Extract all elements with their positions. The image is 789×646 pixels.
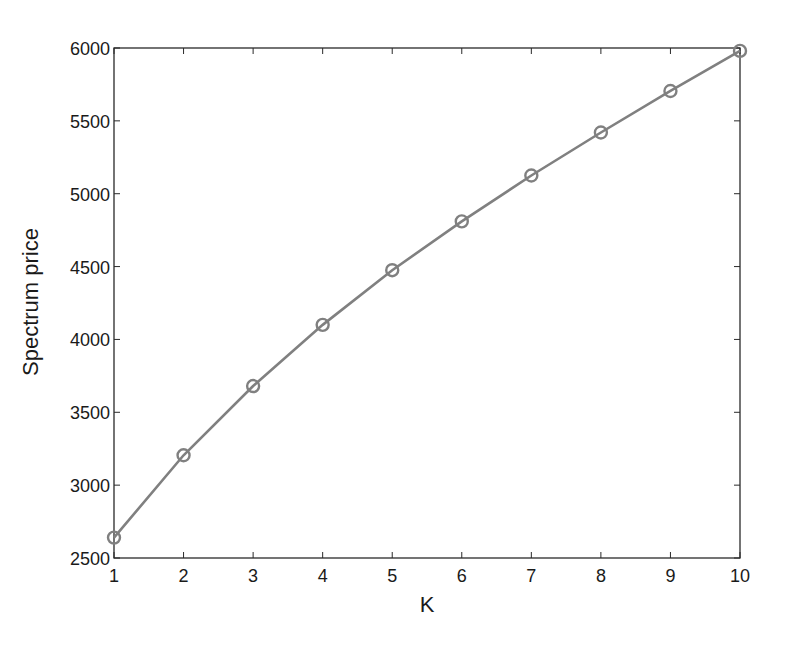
y-tick-label: 5000	[70, 185, 110, 205]
y-tick-label: 4500	[70, 258, 110, 278]
x-tick-label: 10	[730, 566, 750, 586]
x-tick-label: 9	[665, 566, 675, 586]
y-tick-label: 6000	[70, 39, 110, 59]
line-chart: 25003000350040004500500055006000 1234567…	[0, 0, 789, 646]
x-axis-label: K	[420, 592, 435, 617]
x-tick-label: 2	[179, 566, 189, 586]
y-axis-label: Spectrum price	[18, 228, 43, 376]
x-tick-label: 1	[109, 566, 119, 586]
y-tick-label: 5500	[70, 112, 110, 132]
x-tick-label: 6	[457, 566, 467, 586]
y-tick-label: 3000	[70, 476, 110, 496]
x-tick-label: 7	[526, 566, 536, 586]
x-tick-label: 4	[318, 566, 328, 586]
x-tick-label: 3	[248, 566, 258, 586]
x-tick-label: 5	[387, 566, 397, 586]
y-tick-label: 4000	[70, 330, 110, 350]
x-tick-label: 8	[596, 566, 606, 586]
y-tick-label: 2500	[70, 549, 110, 569]
y-tick-label: 3500	[70, 403, 110, 423]
